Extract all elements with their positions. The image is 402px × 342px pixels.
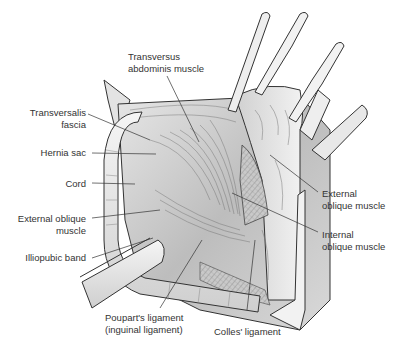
label-line: Cord xyxy=(0,178,86,190)
label-external-oblique-left: External oblique muscle xyxy=(0,213,86,237)
label-external-oblique-right: External oblique muscle xyxy=(322,188,385,212)
label-line: oblique muscle xyxy=(322,200,385,212)
label-line: Colles' ligament xyxy=(214,326,281,338)
label-cord: Cord xyxy=(0,178,86,190)
label-hernia-sac: Hernia sac xyxy=(0,147,86,159)
label-line: Transversus xyxy=(128,51,204,63)
label-line: Internal xyxy=(322,229,385,241)
label-line: (inguinal ligament) xyxy=(105,324,183,336)
label-iliopubic-band: Illiopubic band xyxy=(0,252,86,264)
label-line: Poupart's ligament xyxy=(105,312,183,324)
label-transversus-abdominis: Transversus abdominis muscle xyxy=(128,51,204,75)
label-line: Hernia sac xyxy=(0,147,86,159)
label-line: oblique muscle xyxy=(322,241,385,253)
label-line: External xyxy=(322,188,385,200)
label-pouparts-ligament: Poupart's ligament (inguinal ligament) xyxy=(105,312,183,336)
label-line: External oblique xyxy=(0,213,86,225)
anatomy-figure: Transversus abdominis muscle Transversal… xyxy=(0,0,402,342)
label-line: fascia xyxy=(0,119,86,131)
label-transversalis-fascia: Transversalis fascia xyxy=(0,107,86,131)
label-line: muscle xyxy=(0,225,86,237)
label-line: Illiopubic band xyxy=(0,252,86,264)
label-internal-oblique: Internal oblique muscle xyxy=(322,229,385,253)
label-line: Transversalis xyxy=(0,107,86,119)
label-colles-ligament: Colles' ligament xyxy=(214,326,281,338)
label-line: abdominis muscle xyxy=(128,63,204,75)
